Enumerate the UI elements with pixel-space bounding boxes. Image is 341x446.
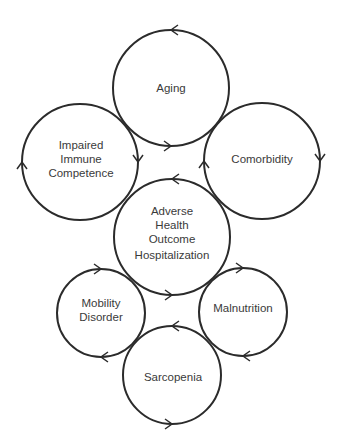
label-malnutrition: Malnutrition <box>213 301 272 315</box>
label-adverse-health-outcome: Adverse Health Outcome Hospitalization <box>135 204 210 262</box>
label-line: Malnutrition <box>213 301 272 315</box>
label-line: Mobility <box>79 296 122 310</box>
diagram-canvas: Aging Impaired Immune Competence Comorbi… <box>0 0 341 446</box>
label-line: Hospitalization <box>135 248 210 262</box>
label-line: Competence <box>48 166 113 180</box>
label-line: Disorder <box>79 310 122 324</box>
label-impaired-immune-competence: Impaired Immune Competence <box>48 138 113 180</box>
label-line: Immune <box>48 152 113 166</box>
label-line: Impaired <box>48 138 113 152</box>
label-mobility-disorder: Mobility Disorder <box>79 296 122 324</box>
label-sarcopenia: Sarcopenia <box>144 370 202 384</box>
label-aging: Aging <box>156 81 185 95</box>
label-line: Comorbidity <box>231 152 292 166</box>
label-line: Outcome <box>135 232 210 246</box>
label-line: Adverse <box>135 204 210 218</box>
label-line: Sarcopenia <box>144 370 202 384</box>
label-line: Health <box>135 218 210 232</box>
label-comorbidity: Comorbidity <box>231 152 292 166</box>
label-line: Aging <box>156 81 185 95</box>
